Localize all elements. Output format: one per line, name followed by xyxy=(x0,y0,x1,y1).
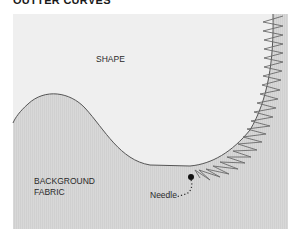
background-fabric-label-line1: BACKGROUND xyxy=(34,176,95,187)
applique-stitch-diagram xyxy=(0,0,298,241)
needle-point xyxy=(188,174,194,180)
needle-label: Needle xyxy=(150,190,177,201)
background-fabric-label-line2: FABRIC xyxy=(34,187,95,198)
background-fabric-label: BACKGROUND FABRIC xyxy=(34,176,95,198)
shape-label: SHAPE xyxy=(96,54,125,65)
